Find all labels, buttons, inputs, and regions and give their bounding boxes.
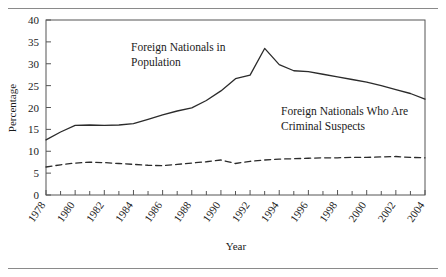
x-tick-label: 1996 [288, 199, 311, 224]
y-tick-label: 25 [28, 80, 40, 92]
y-tick-label: 10 [28, 145, 40, 157]
y-tick-label: 20 [28, 102, 40, 114]
line-chart: 0510152025303540 19781980198219841986198… [0, 0, 446, 277]
series-1-label-line1: Foreign Nationals in [131, 41, 226, 54]
series-1-label-line2: Population [131, 56, 181, 69]
x-tick-label: 1988 [171, 199, 194, 224]
y-tick-label: 15 [28, 123, 40, 135]
x-tick-label: 1994 [258, 199, 281, 224]
x-tick-label: 1998 [317, 199, 340, 224]
y-axis-title: Percentage [6, 84, 18, 132]
y-tick-label: 35 [28, 36, 40, 48]
x-tick-label: 1978 [25, 199, 48, 224]
x-tick-label: 2004 [404, 199, 427, 224]
x-tick-label: 1982 [83, 199, 105, 224]
y-axis-tick-labels: 0510152025303540 [28, 14, 40, 201]
x-tick-label: 2002 [375, 199, 397, 224]
series-line-2 [46, 157, 425, 168]
y-axis-ticks [46, 20, 51, 195]
x-axis-tick-labels: 1978198019821984198619881990199219941996… [25, 199, 427, 224]
x-tick-label: 2000 [346, 199, 369, 224]
x-axis-ticks [46, 190, 425, 195]
x-axis-title: Year [226, 240, 247, 252]
x-tick-label: 1986 [142, 199, 165, 224]
series-2-label-line1: Foreign Nationals Who Are [281, 105, 408, 118]
y-tick-label: 30 [28, 58, 40, 70]
x-tick-label: 1984 [113, 199, 136, 224]
x-tick-label: 1992 [229, 199, 251, 224]
figure-container: 0510152025303540 19781980198219841986198… [0, 0, 446, 277]
series-2-label-line2: Criminal Suspects [281, 120, 366, 133]
y-tick-label: 40 [28, 14, 40, 26]
series-line-1 [46, 48, 425, 139]
x-tick-label: 1990 [200, 199, 223, 224]
y-tick-label: 0 [34, 189, 40, 201]
x-tick-label: 1980 [54, 199, 77, 224]
y-tick-label: 5 [34, 167, 40, 179]
